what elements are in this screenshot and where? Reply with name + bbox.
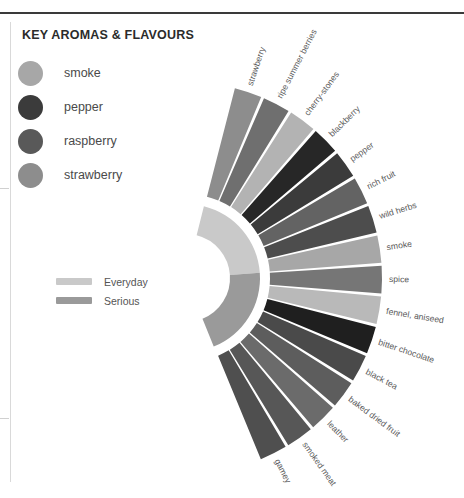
- fan-segment-label: ripe summer berries: [275, 28, 319, 100]
- fan-segment-label: baked dried fruit: [347, 394, 403, 439]
- inner-band-segment: [202, 273, 260, 347]
- fan-segment-label: rich fruit: [365, 168, 397, 191]
- fan-segment-label: wild herbs: [377, 200, 418, 221]
- fan-segment-label: smoke: [386, 239, 413, 253]
- aroma-fan-chart: strawberryripe summer berriescherry-ston…: [0, 0, 464, 498]
- fan-segment-label: fennel, aniseed: [386, 306, 445, 326]
- inner-band-group: [197, 206, 260, 346]
- fan-segment-label: leather: [325, 419, 351, 445]
- fan-segment-label: strawberry: [245, 45, 267, 87]
- fan-segment-label: black tea: [364, 367, 399, 392]
- fan-segment-label: smoked meat: [300, 440, 338, 488]
- fan-chart-svg: strawberryripe summer berriescherry-ston…: [0, 0, 464, 498]
- poster-panel: KEY AROMAS & FLAVOURS smokepepperraspber…: [0, 0, 464, 498]
- fan-segment-label: gamey: [273, 457, 294, 485]
- fan-segment-label: spice: [389, 274, 409, 284]
- fan-segment-label: blackberry: [327, 103, 363, 138]
- fan-segment-label: cherry-stones: [302, 70, 341, 118]
- fan-segment-label: bitter chocolate: [377, 337, 436, 365]
- fan-segment-label: pepper: [348, 140, 376, 164]
